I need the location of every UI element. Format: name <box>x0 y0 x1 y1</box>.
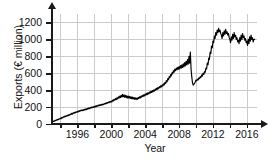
x-tick <box>162 123 163 128</box>
y-axis-arrow-icon <box>48 2 56 9</box>
y-tick <box>46 22 52 23</box>
y-tick <box>46 56 52 57</box>
x-axis-label: Year <box>48 142 262 154</box>
y-tick <box>46 124 52 125</box>
x-axis-arrow-icon <box>261 120 268 128</box>
x-tick <box>94 123 95 128</box>
y-tick <box>46 39 52 40</box>
exports-line-chart: Exports (€ million) 02004006008001000120… <box>0 0 274 161</box>
x-tick <box>128 123 129 128</box>
y-tick-label: 600 <box>24 67 42 79</box>
x-tick <box>230 123 231 128</box>
y-tick-label: 0 <box>36 118 42 130</box>
x-tick <box>60 123 61 128</box>
x-tick-label: 2008 <box>167 128 190 140</box>
series-exports-line <box>52 28 255 122</box>
x-tick-label: 2012 <box>201 128 224 140</box>
y-tick <box>46 73 52 74</box>
y-tick-label: 1200 <box>19 16 42 28</box>
x-tick-label: 2016 <box>235 128 258 140</box>
y-tick-label: 200 <box>24 101 42 113</box>
y-tick-label: 1000 <box>19 33 42 45</box>
y-tick <box>46 90 52 91</box>
x-tick <box>196 123 197 128</box>
y-tick-label: 400 <box>24 84 42 96</box>
series-layer <box>52 14 257 124</box>
y-tick-label: 800 <box>24 50 42 62</box>
plot-area <box>52 14 257 124</box>
x-tick-label: 1996 <box>66 128 89 140</box>
x-tick-label: 2000 <box>100 128 123 140</box>
y-tick <box>46 107 52 108</box>
x-tick-label: 2004 <box>133 128 156 140</box>
